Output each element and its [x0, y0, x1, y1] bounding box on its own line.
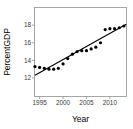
y-tick-label: 16	[24, 39, 32, 46]
plot-canvas: 199520002005201012141618	[0, 0, 133, 129]
data-point	[90, 47, 93, 50]
data-point	[118, 26, 121, 29]
scatter-plot-figure: 199520002005201012141618 Year PercentGDP	[0, 0, 133, 129]
data-point	[47, 68, 50, 71]
x-tick-label: 2000	[56, 99, 71, 106]
data-point	[108, 27, 111, 30]
data-point	[71, 53, 74, 56]
y-tick-label: 12	[24, 74, 32, 81]
y-tick-label: 14	[24, 57, 32, 64]
x-axis-title: Year	[0, 115, 133, 124]
data-point	[99, 41, 102, 44]
x-tick-label: 1995	[33, 99, 48, 106]
y-tick-label: 18	[24, 21, 32, 28]
plot-frame	[35, 8, 127, 97]
data-point	[80, 49, 83, 52]
data-point	[104, 28, 107, 31]
data-point	[85, 49, 88, 52]
data-point	[113, 27, 116, 30]
data-point	[57, 67, 60, 70]
data-point	[76, 50, 79, 53]
x-tick-label: 2010	[103, 99, 118, 106]
data-point	[66, 57, 69, 60]
data-point	[43, 67, 46, 70]
data-point	[61, 62, 64, 65]
data-point	[52, 68, 55, 71]
data-point	[122, 24, 125, 27]
data-point	[38, 66, 41, 69]
x-tick-label: 2005	[79, 99, 94, 106]
data-point	[94, 46, 97, 49]
y-axis-title: PercentGDP	[3, 28, 12, 76]
data-point	[33, 65, 36, 68]
